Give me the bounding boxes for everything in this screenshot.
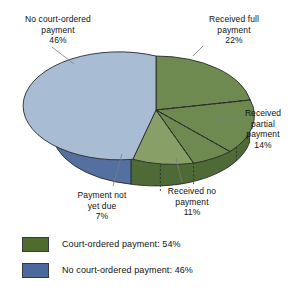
callout-received-full-payment: Received full payment 22%: [186, 14, 282, 46]
legend-item-court-ordered: Court-ordered payment: 54%: [22, 237, 290, 252]
callout-received-partial-payment: Received partial payment 14%: [232, 108, 294, 150]
pie-chart: No court-ordered payment 46% Received fu…: [0, 0, 298, 296]
legend-label-no-court-ordered: No court-ordered payment: 46%: [62, 265, 193, 276]
leader-no-court-ordered: [52, 47, 74, 64]
chart-legend: Court-ordered payment: 54% No court-orde…: [22, 237, 290, 289]
callout-received-no-payment: Received no payment 11%: [148, 186, 236, 218]
leader-received-full: [193, 46, 203, 56]
legend-swatch-court-ordered: [22, 237, 49, 252]
pie-slice-no-court-ordered-payment: [23, 52, 156, 160]
callout-payment-not-yet-due: Payment not yet due 7%: [58, 190, 146, 222]
pie-top-face: [23, 52, 254, 165]
legend-swatch-no-court-ordered: [22, 263, 49, 278]
legend-item-no-court-ordered: No court-ordered payment: 46%: [22, 263, 290, 278]
legend-label-court-ordered: Court-ordered payment: 54%: [62, 239, 181, 250]
callout-no-court-ordered-payment: No court-ordered payment 46%: [6, 14, 110, 46]
